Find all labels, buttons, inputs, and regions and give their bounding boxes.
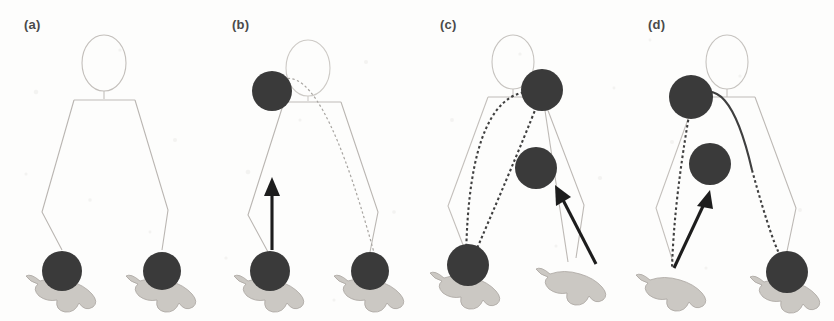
left-hand-icon bbox=[636, 274, 706, 311]
panel-c: (c) bbox=[416, 0, 624, 321]
panel-c-drawing bbox=[416, 0, 624, 321]
ball-midair bbox=[689, 143, 731, 185]
panel-a: (a) bbox=[0, 0, 208, 321]
ball-right bbox=[766, 251, 808, 293]
up-left-arrow-icon bbox=[555, 185, 596, 264]
up-right-arrow-icon bbox=[674, 190, 713, 268]
ball-raised bbox=[252, 71, 292, 111]
descend-trajectory-arc bbox=[752, 170, 784, 262]
ball-left bbox=[250, 251, 290, 291]
up-arrow-icon bbox=[264, 177, 280, 250]
panel-d: (d) bbox=[624, 0, 832, 321]
rise-trajectory-arc bbox=[672, 104, 691, 268]
right-arm-line bbox=[341, 102, 378, 252]
head-icon bbox=[82, 35, 126, 91]
head-icon bbox=[286, 40, 330, 96]
ball-raised bbox=[521, 69, 563, 111]
panel-b: (b) bbox=[208, 0, 416, 321]
panel-b-drawing bbox=[208, 0, 416, 321]
panel-a-drawing bbox=[0, 0, 208, 321]
stick-figure-c bbox=[448, 35, 584, 262]
stick-figure-a bbox=[42, 35, 168, 250]
ball-left bbox=[447, 244, 489, 286]
ball-midair bbox=[515, 147, 557, 189]
panel-d-drawing bbox=[624, 0, 832, 321]
left-arm-line bbox=[248, 102, 284, 252]
ball-left bbox=[42, 251, 82, 291]
right-hand-icon bbox=[536, 268, 606, 305]
figure-container: (a) (b) bbox=[0, 0, 834, 321]
left-arm-line bbox=[42, 100, 74, 250]
right-arm-line bbox=[135, 100, 168, 250]
head-icon bbox=[706, 35, 748, 89]
right-arm-line bbox=[755, 97, 796, 256]
ball-raised bbox=[669, 75, 713, 119]
left-arm-line bbox=[448, 97, 488, 250]
stick-figure-d bbox=[656, 35, 796, 262]
ball-right bbox=[143, 252, 181, 290]
ball-right bbox=[351, 252, 389, 290]
